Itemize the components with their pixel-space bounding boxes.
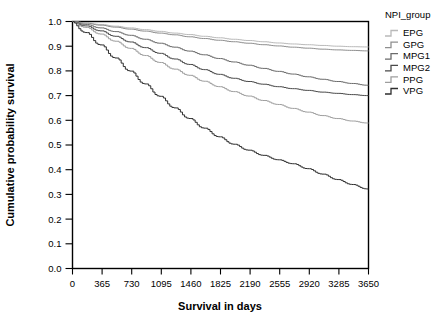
x-tick-label: 3650: [358, 278, 379, 289]
x-tick-label: 2555: [269, 278, 290, 289]
survival-curves: [73, 22, 369, 189]
y-tick-label: 0.0: [48, 263, 61, 274]
y-axis-ticks: [66, 22, 73, 269]
x-tick-label: 0: [70, 278, 75, 289]
legend-label-epg: EPG: [403, 27, 423, 38]
y-tick-label: 1.0: [48, 16, 61, 27]
legend-items: EPGGPGMPG1MPG2PPGVPG: [385, 27, 430, 96]
x-axis-ticks: [73, 269, 369, 275]
survival-curve-epg: [73, 22, 369, 47]
survival-curve-mpg1: [73, 22, 369, 86]
y-tick-label: 0.5: [48, 139, 61, 150]
legend-swatch-vpg: [385, 89, 398, 95]
x-tick-label: 1095: [151, 278, 172, 289]
y-tick-label: 0.7: [48, 90, 61, 101]
x-tick-label: 365: [94, 278, 110, 289]
x-tick-label: 2920: [299, 278, 320, 289]
y-tick-label: 0.2: [48, 214, 61, 225]
legend-label-gpg: GPG: [403, 39, 424, 50]
legend-swatch-mpg2: [385, 65, 398, 71]
y-tick-label: 0.3: [48, 189, 61, 200]
legend-label-mpg2: MPG2: [403, 62, 430, 73]
x-axis-tick-labels: 036573010951460182521902555292032853650: [70, 278, 379, 289]
legend-label-ppg: PPG: [403, 74, 423, 85]
legend-swatch-mpg1: [385, 54, 398, 60]
x-tick-label: 1460: [180, 278, 201, 289]
y-tick-label: 0.8: [48, 65, 61, 76]
y-tick-label: 0.9: [48, 41, 61, 52]
x-tick-label: 730: [124, 278, 140, 289]
y-axis-title: Cumulative probability survival: [4, 63, 16, 226]
legend-swatch-epg: [385, 31, 398, 37]
legend: NPI_group EPGGPGMPG1MPG2PPGVPG: [385, 9, 430, 96]
y-tick-label: 0.1: [48, 238, 61, 249]
legend-label-mpg1: MPG1: [403, 50, 430, 61]
x-tick-label: 3285: [328, 278, 349, 289]
legend-label-vpg: VPG: [403, 85, 423, 96]
y-axis-tick-labels: 0.00.10.20.30.40.50.60.70.80.91.0: [48, 16, 61, 274]
legend-swatch-gpg: [385, 42, 398, 48]
y-tick-label: 0.4: [48, 164, 61, 175]
survival-curve-vpg: [73, 22, 369, 189]
x-tick-label: 2190: [240, 278, 261, 289]
y-tick-label: 0.6: [48, 115, 61, 126]
x-tick-label: 1825: [210, 278, 231, 289]
x-axis-title: Survival in days: [178, 300, 262, 312]
legend-title: NPI_group: [385, 9, 430, 20]
survival-chart: 0.00.10.20.30.40.50.60.70.80.91.0 036573…: [0, 0, 440, 323]
legend-swatch-ppg: [385, 77, 398, 83]
